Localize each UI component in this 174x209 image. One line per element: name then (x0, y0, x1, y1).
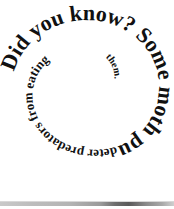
did-you-know-spiral-figure: Did you know? Some moth pupae produce sq… (0, 0, 174, 209)
spiral-segment-inner: them. (104, 51, 124, 80)
page-canvas: Did you know? Some moth pupae produce sq… (0, 0, 174, 209)
bottom-gradient-strip (0, 201, 174, 206)
spiral-segment-inner-text: them. (104, 51, 124, 80)
spiral-segment-middle-text: deter predators from eating (20, 51, 119, 162)
bottom-strip-topline (0, 201, 174, 202)
spiral-text-svg: Did you know? Some moth pupae produce sq… (0, 0, 174, 209)
spiral-segment-middle: deter predators from eating (20, 51, 119, 162)
